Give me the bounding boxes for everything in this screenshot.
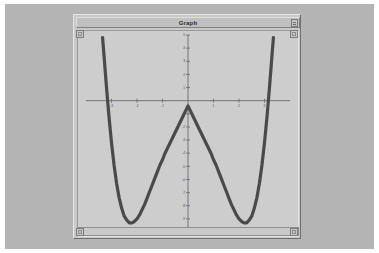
window-control-icon[interactable] [291,19,298,27]
y-tick-label: 1 [183,86,185,90]
axes-group [86,35,290,232]
graph-window[interactable]: Graph -3-2-112354321-1-2-3-4-5-6-7-8-9-1… [73,14,301,239]
window-bottom-frame [77,227,299,236]
window-control-line-2 [293,24,296,25]
screen-root: Graph -3-2-112354321-1-2-3-4-5-6-7-8-9-1… [0,0,379,253]
y-tick-label: -9 [182,217,185,221]
x-tick-label: -3 [110,104,113,108]
y-tick-label: -5 [182,165,185,169]
y-tick-label: -2 [182,125,185,129]
x-tick-label: 1 [213,104,215,108]
function-plot: -3-2-112354321-1-2-3-4-5-6-7-8-9-10 [78,31,298,236]
resize-handle-top-left[interactable] [76,30,84,38]
y-tick-label: 2 [183,73,185,77]
x-tick-label: -2 [136,104,139,108]
y-tick-label: -6 [182,178,185,182]
y-tick-label: 5 [183,33,185,37]
resize-handle-bottom-right[interactable] [290,228,298,236]
y-tick-label: -4 [182,151,185,155]
x-tick-label: 3 [264,104,266,108]
window-titlebar[interactable]: Graph [76,17,300,28]
window-title: Graph [179,20,198,26]
resize-handle-bottom-left[interactable] [76,228,84,236]
window-control-line-1 [293,22,296,23]
y-tick-label: 3 [183,59,185,63]
x-tick-label: 2 [238,104,240,108]
graph-canvas[interactable]: -3-2-112354321-1-2-3-4-5-6-7-8-9-10 [77,30,299,237]
y-tick-label: -8 [182,204,185,208]
x-tick-label: -1 [161,104,164,108]
y-tick-label: -3 [182,138,185,142]
y-tick-label: -7 [182,191,185,195]
resize-handle-top-right[interactable] [290,30,298,38]
y-tick-label: 4 [183,46,185,50]
